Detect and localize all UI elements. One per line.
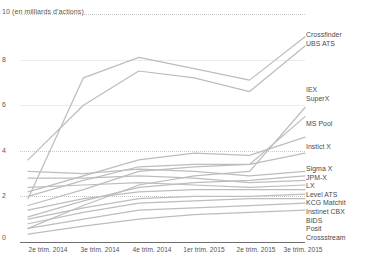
- line-chart: 10 (en milliards d'actions) 8 6 4 2 0 2e…: [0, 0, 380, 269]
- plot-area: [20, 14, 305, 242]
- x-tick-1: 3e trim. 2014: [80, 245, 119, 254]
- series-lines: [20, 14, 305, 242]
- legend-item-kcg-matchit: KCG Matchit: [306, 199, 346, 208]
- legend-item-instict-x: Instict X: [306, 143, 331, 152]
- y-axis-title: 10 (en milliards d'actions): [2, 8, 84, 16]
- legend-item-posit: Posit: [306, 225, 322, 234]
- y-tick-0: 0: [2, 234, 6, 242]
- legend-item-level-ats: Level ATS: [306, 191, 337, 200]
- x-tick-0: 2e trim. 2014: [28, 245, 67, 254]
- legend-item-instinet-cbx: Instinet CBX: [306, 208, 345, 217]
- legend-item-crossfinder: Crossfinder: [306, 31, 342, 40]
- legend: Crossfinder UBS ATS IEX SuperX MS Pool I…: [306, 0, 380, 269]
- legend-item-ubs-ats: UBS ATS: [306, 40, 335, 49]
- y-tick-8: 8: [2, 56, 6, 64]
- y-tick-2: 2: [2, 192, 6, 200]
- legend-item-sigma-x: Sigma X: [306, 165, 332, 174]
- legend-item-bids: BIDS: [306, 217, 322, 226]
- y-tick-6: 6: [2, 101, 6, 109]
- legend-item-crossstream: Crossstream: [306, 234, 346, 243]
- legend-item-iex: IEX: [306, 86, 317, 95]
- series-line: [28, 190, 305, 211]
- x-axis-baseline: [20, 242, 305, 243]
- x-tick-4: 2e trim. 2015: [236, 245, 275, 254]
- x-tick-3: 1er trim. 2015: [183, 245, 224, 254]
- x-tick-2: 4e trim. 2014: [132, 245, 171, 254]
- series-line: [28, 169, 305, 176]
- y-tick-4: 4: [2, 147, 6, 155]
- legend-item-superx: SuperX: [306, 95, 329, 104]
- legend-item-ms-pool: MS Pool: [306, 120, 332, 129]
- legend-item-lx: LX: [306, 182, 315, 191]
- x-axis-labels: 2e trim. 2014 3e trim. 2014 4e trim. 201…: [20, 245, 305, 257]
- legend-item-jpm-x: JPM-X: [306, 174, 327, 183]
